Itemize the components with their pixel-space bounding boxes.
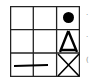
horizontal-line-icon bbox=[14, 65, 48, 66]
puzzle-grid bbox=[10, 6, 80, 77]
filled-circle-icon bbox=[63, 12, 74, 23]
side-mark: ( bbox=[86, 57, 93, 63]
side-mark: · bbox=[86, 12, 93, 18]
grid-svg bbox=[10, 6, 80, 77]
triangle-icon bbox=[60, 31, 77, 52]
side-mark: · bbox=[86, 34, 93, 40]
x-cross-icon bbox=[58, 54, 79, 76]
